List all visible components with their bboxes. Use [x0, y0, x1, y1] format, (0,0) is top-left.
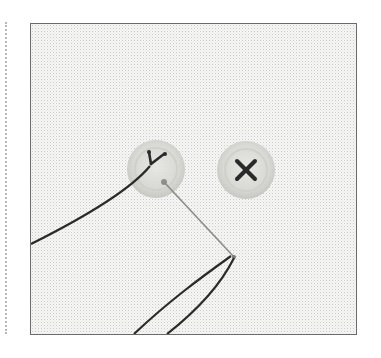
button-left — [127, 140, 185, 198]
sewing-photo — [30, 23, 357, 335]
needle — [164, 182, 234, 257]
sewing-illustration — [31, 24, 356, 334]
button-right — [217, 141, 275, 199]
dotted-margin-rule — [5, 22, 7, 334]
